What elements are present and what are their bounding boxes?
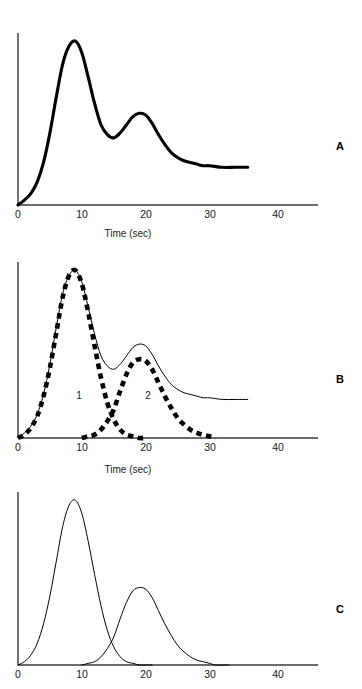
curve-summed-response-panel-A xyxy=(18,41,248,205)
xaxis-tick-label: 40 xyxy=(266,208,290,220)
curve-component-1-panel-B xyxy=(18,270,146,438)
xaxis-tick-label: 40 xyxy=(266,668,290,680)
xaxis-tick-label: 30 xyxy=(198,668,222,680)
xaxis-tick-label: 10 xyxy=(70,668,94,680)
xaxis-tick-label: 30 xyxy=(198,208,222,220)
panel-b-component-label-2: 2 xyxy=(141,390,155,401)
panel-c-axes xyxy=(18,492,318,665)
xaxis-tick-label: 10 xyxy=(70,441,94,453)
panel-letter-c: C xyxy=(336,603,344,615)
panel-b-xaxis-caption: Time (sec) xyxy=(88,464,168,475)
xaxis-tick-label: 20 xyxy=(134,668,158,680)
curve-component-2-panel-C xyxy=(82,587,229,665)
panel-letter-b: B xyxy=(336,373,344,385)
curve-component-1-panel-C xyxy=(18,500,152,665)
xaxis-tick-label: 10 xyxy=(70,208,94,220)
figure-root: A B C Time (sec) Time (sec) 1 2 01020304… xyxy=(0,0,362,689)
panel-letter-a: A xyxy=(336,140,344,152)
xaxis-tick-label: 20 xyxy=(134,441,158,453)
panel-b-component-label-1: 1 xyxy=(72,390,86,401)
xaxis-tick-label: 30 xyxy=(198,441,222,453)
xaxis-tick-label: 40 xyxy=(266,441,290,453)
panel-a-xaxis-caption: Time (sec) xyxy=(88,228,168,239)
xaxis-tick-label: 20 xyxy=(134,208,158,220)
xaxis-tick-label: 0 xyxy=(6,668,30,680)
three-panel-kinetics-figure xyxy=(0,0,362,689)
xaxis-tick-label: 0 xyxy=(6,208,30,220)
xaxis-tick-label: 0 xyxy=(6,441,30,453)
